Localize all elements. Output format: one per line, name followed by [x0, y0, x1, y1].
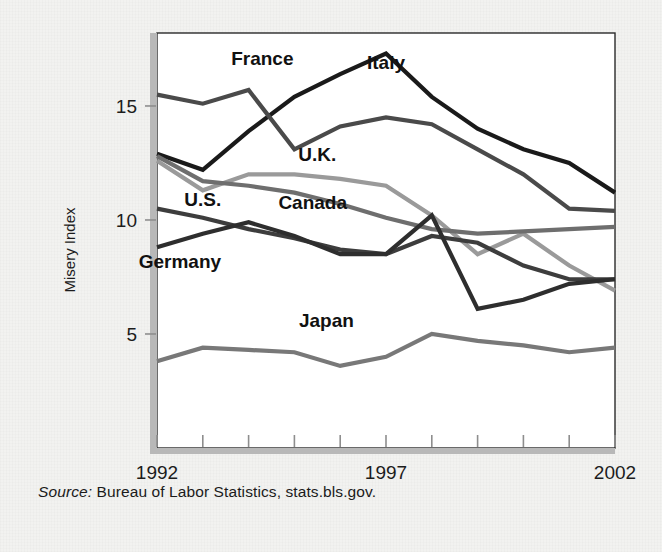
- series-label-italy: Italy: [367, 52, 405, 73]
- x-tick-label-2002: 2002: [594, 462, 636, 483]
- y-axis-tick-labels: 51015: [116, 96, 137, 345]
- misery-index-line-chart: 51015 199219972002 ItalyFranceU.K.Canada…: [0, 0, 662, 552]
- series-label-us: U.S.: [184, 189, 221, 210]
- misery-index-figure: 51015 199219972002 ItalyFranceU.K.Canada…: [0, 0, 662, 552]
- series-label-germany: Germany: [139, 251, 222, 272]
- source-label: Source:: [38, 483, 92, 500]
- x-tick-label-1992: 1992: [136, 462, 178, 483]
- source-text: Bureau of Labor Statistics, stats.bls.go…: [97, 483, 377, 500]
- y-tick-label-10: 10: [116, 210, 137, 231]
- series-label-uk: U.K.: [298, 144, 336, 165]
- series-label-japan: Japan: [299, 310, 354, 331]
- y-axis-title: Misery Index: [61, 207, 78, 293]
- y-tick-label-15: 15: [116, 96, 137, 117]
- x-tick-label-1997: 1997: [365, 462, 407, 483]
- x-axis-tick-labels: 199219972002: [136, 462, 636, 483]
- source-note: Source: Bureau of Labor Statistics, stat…: [38, 483, 376, 501]
- series-label-canada: Canada: [278, 192, 347, 213]
- y-tick-label-5: 5: [126, 324, 137, 345]
- series-label-france: France: [231, 48, 293, 69]
